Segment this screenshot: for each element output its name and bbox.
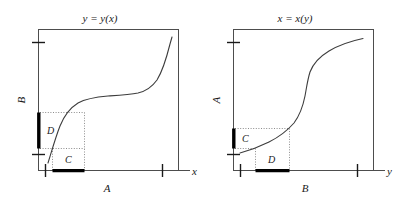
panel-left-frame bbox=[39, 30, 179, 171]
panel-right-plot: x = x(y) C D A bbox=[199, 0, 398, 204]
panel-left-curve bbox=[48, 37, 172, 163]
panel-right-interval-label-D: D bbox=[267, 154, 276, 165]
panel-left-title: y = y(x) bbox=[82, 12, 118, 25]
panel-left-y-axis-label: B bbox=[15, 96, 27, 103]
panel-left-axis-end-label: x bbox=[191, 165, 197, 177]
panel-left-interval-label-D: D bbox=[46, 125, 55, 136]
panel-right-axis-end-label: y bbox=[386, 165, 392, 177]
panel-right-frame bbox=[234, 30, 374, 171]
panel-right-x-of-y: x = x(y) C D A bbox=[199, 0, 398, 204]
panel-right-interval-label-C: C bbox=[242, 133, 249, 144]
panel-right-title: x = x(y) bbox=[277, 12, 313, 25]
panel-right-y-axis-label: A bbox=[210, 96, 222, 104]
panel-right-x-axis-label: B bbox=[302, 182, 309, 194]
panel-left-y-of-x: y = y(x) D C B bbox=[0, 0, 199, 204]
panel-right-curve bbox=[240, 39, 363, 154]
figure-root: y = y(x) D C B bbox=[0, 0, 398, 204]
panel-left-plot: y = y(x) D C B bbox=[0, 0, 199, 204]
panel-left-interval-label-C: C bbox=[65, 154, 72, 165]
panel-left-x-axis-label: A bbox=[103, 182, 111, 194]
